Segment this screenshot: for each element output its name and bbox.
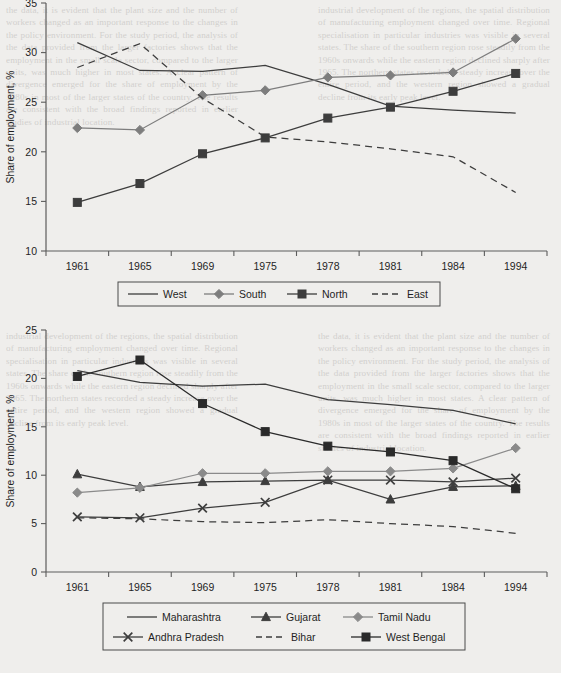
series-marker <box>73 372 81 380</box>
series-maharashtra <box>77 371 515 424</box>
series-marker <box>261 469 270 478</box>
series-marker <box>199 400 207 408</box>
series-marker <box>136 356 144 364</box>
y-tick-label: 25 <box>25 324 37 336</box>
series-marker <box>386 103 394 111</box>
chart-state-shares-svg: 0510152025Share of employment, %19611965… <box>0 318 561 673</box>
x-tick-label: 1978 <box>316 260 340 272</box>
series-marker <box>324 442 332 450</box>
series-marker <box>73 469 82 477</box>
series-line <box>77 44 515 193</box>
x-tick-label: 1965 <box>128 260 152 272</box>
legend-item-label: East <box>407 288 428 300</box>
series-marker <box>323 73 332 82</box>
legend-item-label: Gujarat <box>286 611 321 623</box>
y-tick-label: 5 <box>31 517 37 529</box>
series-marker <box>73 123 82 132</box>
series-marker <box>324 114 332 122</box>
x-tick-label: 1975 <box>254 260 278 272</box>
legend-item-label: Bihar <box>291 631 316 643</box>
series-marker <box>386 71 395 80</box>
y-tick-label: 35 <box>25 0 37 9</box>
series-marker <box>512 69 520 77</box>
series-west <box>77 43 515 113</box>
x-tick-label: 1994 <box>504 581 528 593</box>
x-tick-label: 1961 <box>66 581 90 593</box>
y-tick-label: 15 <box>25 421 37 433</box>
legend-item-label: South <box>239 288 267 300</box>
series-north <box>73 69 519 206</box>
y-axis-title: Share of employment, % <box>5 395 16 508</box>
series-marker <box>448 464 457 473</box>
series-south <box>73 34 521 134</box>
x-tick-label: 1981 <box>379 260 403 272</box>
x-tick-label: 1984 <box>441 581 465 593</box>
chart-regional-shares-svg: 101520253035Share of employment, %196119… <box>0 0 561 310</box>
chart-legend: WestSouthNorthEast <box>118 282 440 306</box>
series-marker <box>511 34 520 43</box>
y-tick-label: 25 <box>25 96 37 108</box>
y-tick-label: 10 <box>25 469 37 481</box>
y-tick-label: 20 <box>25 146 37 158</box>
series-marker <box>136 180 144 188</box>
legend-item-label: West Bengal <box>386 631 445 643</box>
x-tick-label: 1969 <box>191 260 215 272</box>
legend-item-label: Tamil Nadu <box>378 611 431 623</box>
series-marker <box>512 485 520 493</box>
legend-item-label: West <box>163 288 187 300</box>
legend-item-label: Andhra Pradesh <box>148 631 224 643</box>
series-marker <box>449 87 457 95</box>
series-marker <box>73 198 81 206</box>
series-marker <box>73 488 82 497</box>
y-tick-label: 0 <box>31 566 37 578</box>
series-east <box>77 44 515 193</box>
series-marker <box>323 467 332 476</box>
legend-item-west-bengal[interactable]: West Bengal <box>351 631 445 643</box>
series-marker <box>449 457 457 465</box>
y-tick-label: 10 <box>25 245 37 257</box>
series-marker <box>261 428 269 436</box>
series-marker <box>135 125 144 134</box>
x-tick-label: 1981 <box>379 581 403 593</box>
x-tick-label: 1975 <box>254 581 278 593</box>
x-tick-label: 1984 <box>441 260 465 272</box>
series-marker <box>511 443 520 452</box>
series-line <box>77 43 515 113</box>
legend-item-label: North <box>322 288 348 300</box>
series-line <box>77 39 515 130</box>
series-marker <box>261 86 270 95</box>
chart-legend: MaharashtraGujaratTamil NaduAndhra Prade… <box>103 603 465 650</box>
legend-swatch-marker <box>298 290 306 298</box>
chart-regional-shares: 101520253035Share of employment, %196119… <box>0 0 561 310</box>
series-line <box>77 371 515 424</box>
series-marker <box>386 467 395 476</box>
y-tick-label: 30 <box>25 46 37 58</box>
chart-state-shares: 0510152025Share of employment, %19611965… <box>0 318 561 673</box>
x-tick-label: 1994 <box>504 260 528 272</box>
x-tick-label: 1978 <box>316 581 340 593</box>
x-tick-label: 1961 <box>66 260 90 272</box>
x-tick-label: 1969 <box>191 581 215 593</box>
series-marker <box>386 448 394 456</box>
series-marker <box>199 150 207 158</box>
legend-item-label: Maharashtra <box>162 611 221 623</box>
series-marker <box>198 469 207 478</box>
y-tick-label: 15 <box>25 195 37 207</box>
legend-swatch-marker <box>362 633 370 641</box>
series-marker <box>448 68 457 77</box>
series-marker <box>135 483 144 492</box>
y-tick-label: 20 <box>25 372 37 384</box>
x-tick-label: 1965 <box>128 581 152 593</box>
y-axis-title: Share of employment, % <box>5 71 16 184</box>
